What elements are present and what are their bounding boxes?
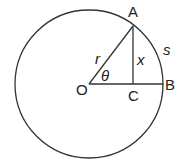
label-point-C: C <box>128 87 139 104</box>
label-side-x: x <box>136 51 145 68</box>
label-arc-s: s <box>163 41 171 58</box>
label-radius-r: r <box>95 50 101 67</box>
label-point-B: B <box>165 76 175 93</box>
label-point-A: A <box>128 3 138 20</box>
label-point-O: O <box>76 81 88 98</box>
label-angle-theta: θ <box>101 67 109 84</box>
circle-diagram: A B C O r x θ s <box>0 0 180 163</box>
